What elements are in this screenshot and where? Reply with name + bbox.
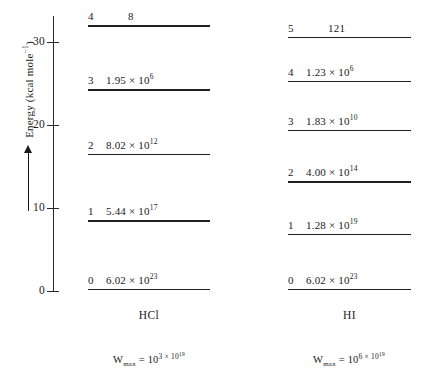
energy-level-value: 8.02 × 1012 [106, 140, 158, 151]
energy-level-index: 4 [88, 11, 94, 22]
y-axis-tick: 0 [0, 291, 59, 292]
energy-level-value-exponent: 23 [150, 272, 158, 281]
molecule-label-hcl: HCl [88, 309, 210, 321]
up-arrow-icon [23, 145, 33, 211]
energy-level-value: 121 [328, 23, 345, 34]
energy-level-line [88, 89, 210, 90]
energy-level-value: 6.02 × 1023 [306, 275, 358, 286]
energy-level-line [288, 130, 411, 131]
wmax-exponent: 6 × 1019 [359, 352, 385, 361]
energy-level-value-exponent: 19 [350, 217, 358, 226]
wmax-equals-base: = 10 [136, 354, 159, 365]
energy-level-line [88, 220, 210, 221]
wmax-equals-base: = 10 [336, 354, 359, 365]
wmax-symbol: W [113, 354, 123, 365]
energy-level-value-exponent: 14 [350, 165, 358, 174]
y-axis-title-text: Energy (kcal mole−1) [21, 41, 35, 138]
energy-level-diagram: 0102030 Energy (kcal mole−1) 4831.95 × 1… [0, 0, 429, 374]
wmax-formula-hi: Wmax = 106 × 1019 [278, 353, 420, 365]
energy-level-value-exponent: 12 [150, 137, 158, 146]
y-axis-title-exponent: −1 [21, 45, 30, 53]
y-axis-title: Energy (kcal mole−1) [20, 36, 36, 216]
energy-level-index: 1 [88, 206, 94, 217]
energy-level-value-exponent: 6 [350, 64, 354, 73]
energy-level-value: 1.28 × 1019 [306, 220, 358, 231]
wmax-nested-exponent: 19 [379, 350, 385, 356]
energy-level-value-exponent: 23 [350, 272, 358, 281]
energy-level-line [88, 289, 210, 290]
energy-level-index: 2 [88, 140, 94, 151]
energy-level-index: 4 [288, 67, 294, 78]
energy-level-value: 4.00 × 1014 [306, 167, 358, 178]
y-axis-title-label: Energy (kcal mole [23, 53, 35, 137]
energy-level-index: 1 [288, 220, 294, 231]
energy-level-line [288, 81, 411, 82]
energy-level-index: 5 [288, 23, 294, 34]
energy-level-value: 1.23 × 106 [306, 67, 354, 78]
energy-level-index: 3 [288, 116, 294, 127]
energy-level-value-exponent: 17 [150, 204, 158, 213]
wmax-formula-hcl: Wmax = 103 × 1019 [78, 353, 220, 365]
energy-level-value: 5.44 × 1017 [106, 206, 158, 217]
y-axis-tick-mark [47, 208, 59, 209]
energy-level-line [288, 289, 411, 290]
wmax-subscript: max [123, 360, 136, 368]
wmax-symbol: W [313, 354, 323, 365]
energy-level-line [88, 154, 210, 155]
energy-level-line [288, 181, 411, 182]
wmax-nested-exponent: 19 [179, 350, 185, 356]
wmax-subscript: max [323, 360, 336, 368]
energy-level-value: 1.83 × 1010 [306, 116, 358, 127]
energy-level-value-exponent: 6 [150, 73, 154, 82]
energy-level-value: 8 [128, 11, 134, 22]
energy-level-line [288, 37, 411, 38]
energy-level-line [88, 25, 210, 26]
molecule-label-hi: HI [288, 309, 411, 321]
y-axis-tick-mark [47, 42, 59, 43]
energy-level-index: 0 [88, 275, 94, 286]
wmax-exponent: 3 × 1019 [159, 352, 185, 361]
energy-level-index: 3 [88, 75, 94, 86]
energy-level-line [288, 234, 411, 235]
y-axis-line [53, 16, 54, 292]
y-axis-tick-mark [47, 125, 59, 126]
energy-level-value: 6.02 × 1023 [106, 275, 158, 286]
y-axis-title-close: ) [23, 41, 35, 45]
y-axis-tick-mark [47, 291, 59, 292]
energy-level-index: 0 [288, 275, 294, 286]
energy-level-value: 1.95 × 106 [106, 75, 154, 86]
energy-level-index: 2 [288, 167, 294, 178]
energy-level-value-exponent: 10 [350, 113, 358, 122]
y-axis-tick-label: 0 [23, 285, 45, 297]
